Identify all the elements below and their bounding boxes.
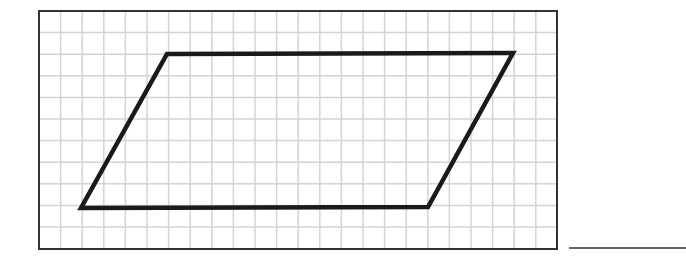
grid-figure: [0, 0, 686, 263]
grid-lines: [39, 11, 557, 249]
